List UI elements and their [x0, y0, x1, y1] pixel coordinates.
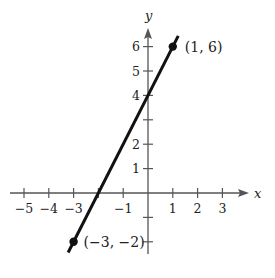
data-line	[68, 36, 178, 253]
x-tick-label: 2	[194, 201, 202, 216]
point-label-neg3-neg2: (−3, −2)	[84, 234, 145, 250]
x-tick-label: −4	[40, 201, 58, 216]
point-label-1-6: (1, 6)	[185, 39, 223, 55]
data-point-marker	[169, 42, 177, 50]
x-tick-label: −1	[114, 201, 132, 216]
y-tick-label: 4	[132, 88, 140, 103]
data-point-marker	[69, 238, 77, 246]
y-axis-label: y	[144, 8, 153, 23]
y-tick-label: 2	[132, 137, 140, 152]
x-tick-label: −3	[64, 201, 82, 216]
line-y-equals-2x-plus-4	[68, 36, 178, 253]
ticks: −5−4−3−112312456	[15, 39, 227, 242]
y-tick-label: 1	[132, 161, 140, 176]
y-tick-label: 6	[132, 39, 140, 54]
x-axis-label: x	[254, 186, 262, 201]
x-tick-label: −5	[15, 201, 33, 216]
y-tick-label: 5	[132, 64, 140, 79]
line-graph: xy −5−4−3−112312456 (1, 6)(−3, −2)	[0, 0, 275, 278]
x-tick-label: 3	[218, 201, 226, 216]
x-tick-label: 1	[169, 201, 177, 216]
